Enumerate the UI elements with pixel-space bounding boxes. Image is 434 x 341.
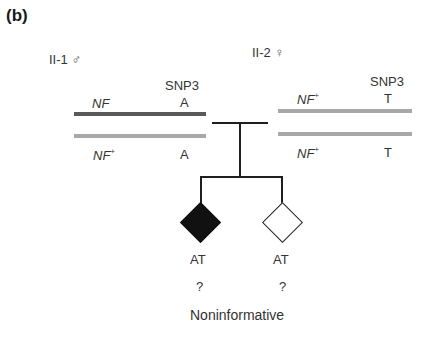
chromosome-bar [74, 112, 206, 116]
snp-allele: T [384, 145, 392, 160]
marker-name: SNP3 [165, 78, 199, 93]
child-genotype: AT [273, 252, 289, 267]
individual-id: II-1 [49, 52, 68, 67]
child-line [200, 176, 202, 203]
sibship-line [200, 176, 282, 178]
individual-id: II-2 [252, 45, 271, 60]
panel-label: (b) [6, 6, 28, 26]
snp-allele: A [180, 95, 189, 110]
child-line [281, 176, 283, 203]
open-diamond-icon [262, 202, 303, 243]
allele-label: NF+ [93, 147, 115, 163]
allele-label: NF+ [297, 91, 319, 107]
individual-label: II-2 ♀ [252, 45, 284, 60]
child-status: ? [196, 279, 203, 294]
allele-label: NF [92, 95, 109, 111]
marker-name: SNP3 [370, 74, 404, 89]
filled-diamond-icon [180, 202, 221, 243]
allele-label: NF+ [297, 145, 319, 161]
individual-label: II-1 ♂ [49, 52, 81, 67]
snp-allele: A [180, 147, 189, 162]
chromosome-bar [278, 132, 412, 136]
conclusion-label: Noninformative [190, 307, 284, 323]
descent-line [239, 122, 241, 177]
child-genotype: AT [190, 252, 206, 267]
snp-allele: T [384, 91, 392, 106]
female-symbol-icon: ♀ [274, 45, 284, 60]
chromosome-bar [74, 134, 206, 138]
chromosome-bar [278, 109, 412, 113]
male-symbol-icon: ♂ [71, 52, 81, 67]
child-status: ? [279, 279, 286, 294]
